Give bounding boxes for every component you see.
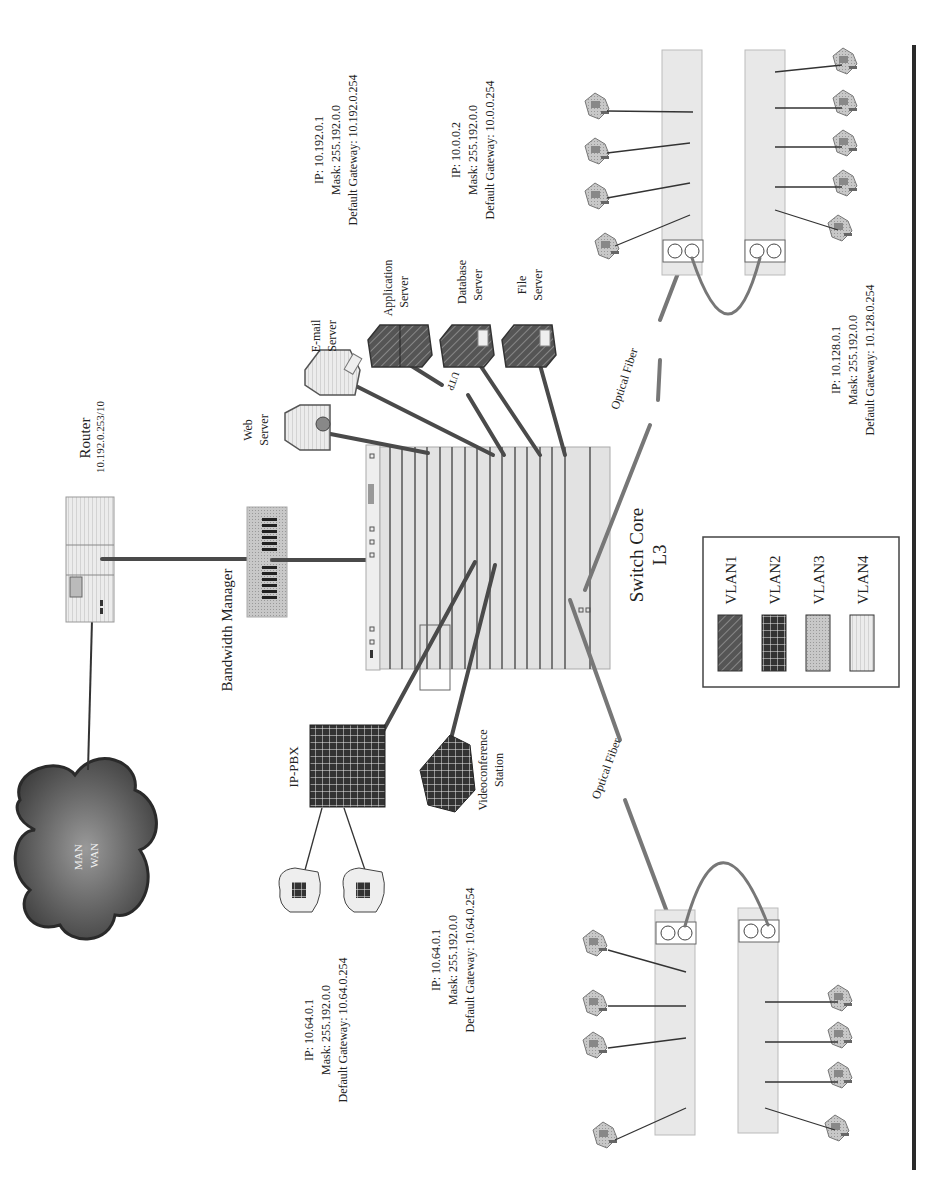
ip-pbx-device[interactable] (310, 725, 385, 807)
switch-core-l3-label: L3 (649, 544, 670, 565)
svg-text:IP: 10.192.0.1: IP: 10.192.0.1 (312, 116, 326, 184)
application-server-label: Application (381, 260, 395, 317)
pc-icons-upper-left[interactable] (585, 93, 619, 259)
pc-icons-upper-right[interactable] (828, 48, 857, 241)
svg-text:Default Gateway: 10.64.0.254: Default Gateway: 10.64.0.254 (336, 958, 350, 1103)
database-server-label-2: Server (471, 269, 485, 300)
svg-text:Mask: 255.192.0.0: Mask: 255.192.0.0 (846, 315, 860, 405)
man-wan-cloud: MAN WAN (15, 759, 156, 939)
server-ip-block-2: IP: 10.0.0.2 Mask: 255.192.0.0 Default G… (449, 81, 497, 220)
utp-label: UTP (445, 370, 462, 392)
legend-label-vlan1: VLAN1 (723, 555, 739, 604)
email-server-label: E-mail (309, 319, 323, 352)
router-title: Router (77, 418, 93, 459)
ip-phone-icon-1[interactable] (279, 868, 320, 912)
svg-text:IP: 10.64.0.1: IP: 10.64.0.1 (302, 999, 316, 1061)
file-server-label: File (515, 276, 529, 295)
legend-swatch-vlan4 (850, 615, 874, 671)
network-diagram: MAN WAN Router 10.192.0.253/10 Bandwidth… (0, 0, 929, 1183)
videoconference-station-icon[interactable] (420, 735, 475, 812)
edge-switch-lower-b[interactable] (738, 908, 779, 1133)
pc-icons-lower-right[interactable] (825, 985, 852, 1141)
email-server-icon[interactable] (305, 350, 362, 395)
legend-label-vlan4: VLAN4 (855, 555, 871, 605)
optical-fiber-label-lower: Optical Fiber (589, 736, 624, 801)
phone-ip-block: IP: 10.64.0.1 Mask: 255.192.0.0 Default … (302, 958, 350, 1103)
pc-icons-lower-left[interactable] (583, 930, 617, 1148)
svg-text:IP: 10.64.0.1: IP: 10.64.0.1 (429, 929, 443, 991)
legend-swatch-vlan1 (718, 615, 742, 671)
legend-label-vlan3: VLAN3 (811, 555, 827, 604)
page-border-bar (912, 45, 916, 1170)
svg-text:IP: 10.0.0.2: IP: 10.0.0.2 (449, 122, 463, 178)
svg-text:IP: 10.128.0.1: IP: 10.128.0.1 (829, 326, 843, 394)
web-server-label: Web (241, 419, 255, 441)
svg-text:Default Gateway: 10.128.0.254: Default Gateway: 10.128.0.254 (863, 285, 877, 436)
web-server-label-2: Server (257, 414, 271, 445)
vlan-legend: VLAN1 VLAN2 VLAN3 VLAN4 (703, 537, 899, 687)
application-server-icon[interactable] (368, 325, 432, 367)
edge-switch-upper-a[interactable] (662, 50, 703, 275)
web-server-icon[interactable] (285, 405, 330, 450)
videoconference-label: Videoconference (476, 729, 490, 810)
file-server-label-2: Server (531, 269, 545, 300)
svg-text:Default Gateway: 10.0.0.254: Default Gateway: 10.0.0.254 (483, 81, 497, 220)
right-ip-block: IP: 10.128.0.1 Mask: 255.192.0.0 Default… (829, 285, 877, 436)
email-server-label-2: Server (325, 320, 339, 351)
svg-text:Mask: 255.192.0.0: Mask: 255.192.0.0 (329, 105, 343, 195)
svg-text:Mask: 255.192.0.0: Mask: 255.192.0.0 (446, 915, 460, 1005)
bandwidth-manager-label: Bandwidth Manager (219, 569, 235, 692)
router-ip: 10.192.0.253/10 (94, 401, 106, 473)
svg-text:Default Gateway: 10.192.0.254: Default Gateway: 10.192.0.254 (346, 75, 360, 226)
optical-fiber-label-upper: Optical Fiber (608, 346, 641, 411)
database-server-icon[interactable] (440, 325, 494, 367)
ip-phone-icon-2[interactable] (343, 868, 384, 912)
server-ip-block-1: IP: 10.192.0.1 Mask: 255.192.0.0 Default… (312, 75, 360, 226)
edge-switch-upper-b[interactable] (745, 50, 785, 275)
application-server-label-2: Server (397, 276, 411, 307)
switch-core-device[interactable] (366, 445, 610, 690)
legend-swatch-vlan3 (806, 615, 830, 671)
edge-switch-lower-a[interactable] (655, 910, 696, 1135)
legend-swatch-vlan2 (762, 615, 786, 671)
legend-label-vlan2: VLAN2 (767, 555, 783, 604)
file-server-icon[interactable] (502, 325, 556, 367)
ip-pbx-label: IP-PBX (286, 746, 301, 788)
svg-text:Mask: 255.192.0.0: Mask: 255.192.0.0 (466, 105, 480, 195)
videoconference-label-2: Station (492, 753, 506, 787)
svg-text:Default Gateway: 10.64.0.254: Default Gateway: 10.64.0.254 (463, 888, 477, 1033)
database-server-label: Database (455, 260, 469, 304)
video-ip-block: IP: 10.64.0.1 Mask: 255.192.0.0 Default … (429, 888, 477, 1033)
cloud-man-label: MAN (72, 844, 84, 870)
svg-text:Mask: 255.192.0.0: Mask: 255.192.0.0 (319, 985, 333, 1075)
switch-core-label: Switch Core (626, 508, 647, 602)
cloud-wan-label: WAN (88, 843, 100, 868)
